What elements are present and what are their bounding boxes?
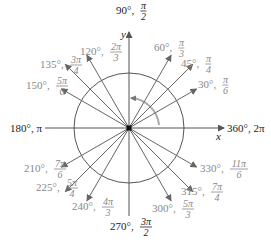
label-30: 30°,π6: [198, 74, 229, 96]
origin-point: [127, 126, 132, 131]
svg-text:4: 4: [70, 188, 75, 199]
svg-text:180°, π: 180°, π: [10, 122, 42, 134]
svg-text:135°,: 135°,: [40, 58, 64, 70]
svg-text:3: 3: [113, 52, 119, 63]
y-axis-label: y: [120, 28, 126, 40]
label-150: 150°,5π6: [26, 75, 68, 97]
svg-text:3π: 3π: [140, 216, 152, 227]
svg-text:6: 6: [60, 86, 65, 97]
svg-text:π: π: [223, 74, 229, 85]
label-240: 240°,4π3: [72, 196, 114, 218]
svg-text:2π: 2π: [111, 41, 122, 52]
label-120: 120°,2π3: [80, 41, 122, 63]
x-axis-label: x: [215, 130, 221, 142]
label-225: 225°,5π4: [36, 177, 78, 199]
label-270: 270°,3π2: [110, 216, 152, 238]
label-300: 300°,5π3: [152, 198, 194, 220]
svg-text:210°,: 210°,: [24, 162, 48, 174]
svg-text:π: π: [206, 53, 212, 64]
svg-text:π: π: [141, 0, 147, 11]
svg-text:7π: 7π: [212, 181, 223, 192]
svg-text:30°,: 30°,: [198, 78, 216, 90]
svg-text:5π: 5π: [67, 177, 78, 188]
label-135: 135°,3π4: [40, 54, 82, 76]
svg-text:360°, 2π: 360°, 2π: [227, 122, 265, 134]
svg-text:3: 3: [178, 48, 184, 59]
svg-text:3: 3: [185, 209, 191, 220]
svg-text:90°,: 90°,: [116, 4, 134, 16]
svg-text:4: 4: [206, 64, 211, 75]
svg-text:300°,: 300°,: [152, 202, 176, 214]
svg-text:330°,: 330°,: [200, 162, 224, 174]
svg-text:4: 4: [74, 65, 79, 76]
label-360: 360°, 2π: [227, 122, 265, 134]
svg-text:240°,: 240°,: [72, 200, 96, 212]
svg-text:60°,: 60°,: [154, 41, 172, 53]
label-330: 330°,11π6: [200, 158, 248, 180]
svg-text:4π: 4π: [103, 196, 114, 207]
label-90: 90°,π2: [116, 0, 147, 22]
svg-text:6: 6: [223, 85, 228, 96]
svg-text:120°,: 120°,: [80, 45, 104, 57]
svg-text:6: 6: [58, 169, 63, 180]
svg-text:150°,: 150°,: [26, 79, 50, 91]
svg-text:315°,: 315°,: [181, 185, 205, 197]
svg-text:11π: 11π: [232, 158, 247, 169]
unit-circle-diagram: x y 90°,π2180°, π360°, 2π270°,3π230°,π64…: [0, 0, 271, 245]
svg-text:2: 2: [144, 227, 149, 238]
label-180: 180°, π: [10, 122, 42, 134]
label-210: 210°,7π6: [24, 158, 66, 180]
svg-text:3π: 3π: [70, 54, 82, 65]
label-60: 60°,π3: [154, 37, 185, 59]
svg-text:270°,: 270°,: [110, 220, 134, 232]
svg-text:4: 4: [215, 192, 220, 203]
svg-text:225°,: 225°,: [36, 181, 60, 193]
svg-text:6: 6: [237, 169, 242, 180]
svg-text:3: 3: [105, 207, 111, 218]
svg-text:5π: 5π: [183, 198, 194, 209]
svg-text:π: π: [179, 37, 185, 48]
svg-text:7π: 7π: [55, 158, 66, 169]
svg-text:5π: 5π: [57, 75, 68, 86]
svg-text:2: 2: [141, 11, 146, 22]
